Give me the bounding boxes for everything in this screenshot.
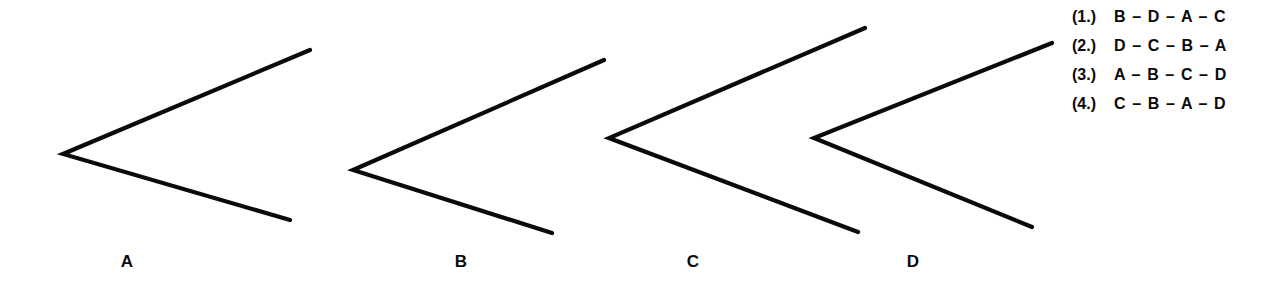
answer-option-number: (3.) xyxy=(1072,66,1114,84)
answer-option-number: (2.) xyxy=(1072,37,1114,55)
chevron-group xyxy=(63,28,1052,233)
shape-label-b: B xyxy=(455,252,467,272)
answer-option-sequence: B – D – A – C xyxy=(1114,8,1227,26)
answer-option-number: (4.) xyxy=(1072,95,1114,113)
answer-option-sequence: A – B – C – D xyxy=(1114,66,1227,84)
shape-label-c: C xyxy=(687,252,699,272)
answer-option-1[interactable]: (1.) B – D – A – C xyxy=(1072,8,1282,37)
answer-option-3[interactable]: (3.) A – B – C – D xyxy=(1072,66,1282,95)
shape-label-d: D xyxy=(907,252,919,272)
chevron-shape-a xyxy=(63,50,310,220)
answer-options-list: (1.) B – D – A – C (2.) D – C – B – A (3… xyxy=(1072,8,1282,124)
chevron-shape-b xyxy=(353,60,604,233)
chevron-shape-c xyxy=(609,28,865,232)
answer-option-4[interactable]: (4.) C – B – A – D xyxy=(1072,95,1282,124)
answer-option-sequence: D – C – B – A xyxy=(1114,37,1227,55)
question-figure-page: A B C D (1.) B – D – A – C (2.) D – C – … xyxy=(0,0,1285,290)
answer-option-number: (1.) xyxy=(1072,8,1114,26)
chevron-shape-d xyxy=(814,43,1052,227)
answer-option-sequence: C – B – A – D xyxy=(1114,95,1227,113)
shape-label-a: A xyxy=(121,252,133,272)
answer-option-2[interactable]: (2.) D – C – B – A xyxy=(1072,37,1282,66)
